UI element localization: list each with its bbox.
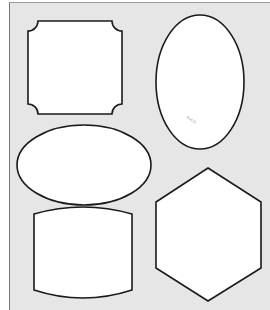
notched-square-shape[interactable]: [28, 21, 122, 114]
curved-panel-shape[interactable]: [34, 207, 132, 298]
shapes-canvas: [0, 0, 270, 310]
vertical-oval-shape[interactable]: [156, 15, 244, 149]
hexagon-shape[interactable]: [156, 168, 261, 301]
horizontal-ellipse-shape[interactable]: [17, 125, 151, 205]
